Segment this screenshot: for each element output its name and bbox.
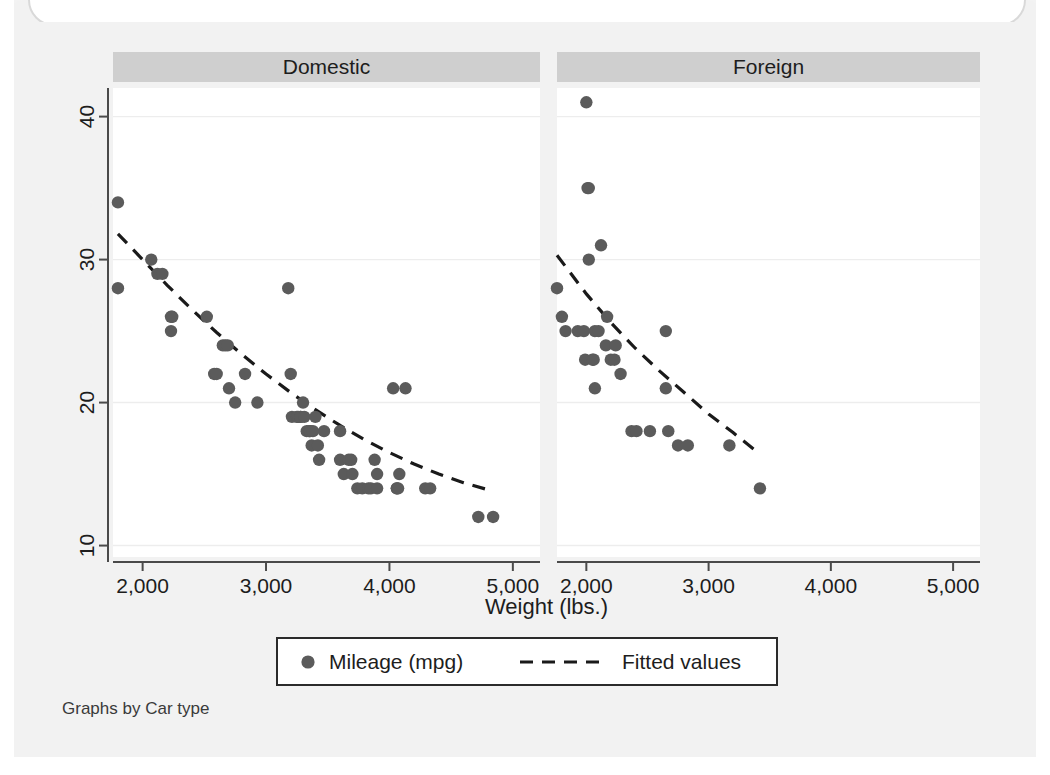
data-point bbox=[368, 454, 380, 466]
x-tick-label-3000: 3,000 bbox=[240, 574, 293, 597]
data-point bbox=[392, 482, 404, 494]
y-tick-label-10: 10 bbox=[75, 534, 98, 557]
data-point bbox=[210, 368, 222, 380]
data-point bbox=[112, 196, 124, 208]
data-point bbox=[371, 468, 383, 480]
data-point bbox=[282, 282, 294, 294]
y-tick-label-20: 20 bbox=[75, 391, 98, 414]
data-point bbox=[587, 353, 599, 365]
data-point bbox=[393, 468, 405, 480]
plot-area-foreign bbox=[557, 88, 980, 557]
panel-title-domestic: Domestic bbox=[283, 55, 371, 78]
data-point bbox=[165, 325, 177, 337]
panel-title-foreign: Foreign bbox=[733, 55, 804, 78]
data-point bbox=[297, 396, 309, 408]
data-point bbox=[345, 454, 357, 466]
mileage-vs-weight-scatter-chart: Domestic2,0003,0004,0005,000Foreign2,000… bbox=[0, 0, 1050, 775]
panel-domestic: Domestic2,0003,0004,0005,000 bbox=[112, 52, 540, 597]
figure-page: Domestic2,0003,0004,0005,000Foreign2,000… bbox=[0, 0, 1050, 775]
data-point bbox=[251, 396, 263, 408]
data-point bbox=[609, 339, 621, 351]
data-point bbox=[589, 382, 601, 394]
data-point bbox=[312, 439, 324, 451]
x-axis-title: Weight (lbs.) bbox=[485, 594, 608, 619]
data-point bbox=[472, 511, 484, 523]
y-tick-label-30: 30 bbox=[75, 248, 98, 271]
data-point bbox=[334, 425, 346, 437]
x-tick-label-4000: 4,000 bbox=[363, 574, 416, 597]
data-point bbox=[309, 411, 321, 423]
data-point bbox=[660, 382, 672, 394]
data-point bbox=[592, 325, 604, 337]
data-point bbox=[298, 411, 310, 423]
data-point bbox=[614, 368, 626, 380]
data-point bbox=[399, 382, 411, 394]
data-point bbox=[723, 439, 735, 451]
data-point bbox=[346, 468, 358, 480]
data-point bbox=[285, 368, 297, 380]
data-point bbox=[145, 253, 157, 265]
data-point bbox=[112, 282, 124, 294]
data-point bbox=[754, 482, 766, 494]
x-tick-label-3000: 3,000 bbox=[682, 574, 735, 597]
data-point bbox=[682, 439, 694, 451]
data-point bbox=[307, 425, 319, 437]
data-point bbox=[556, 311, 568, 323]
data-point bbox=[580, 96, 592, 108]
y-tick-label-40: 40 bbox=[75, 105, 98, 128]
data-point bbox=[313, 454, 325, 466]
legend-marker-mileage bbox=[301, 655, 314, 668]
data-point bbox=[644, 425, 656, 437]
data-point bbox=[487, 511, 499, 523]
data-point bbox=[223, 382, 235, 394]
data-point bbox=[371, 482, 383, 494]
data-point bbox=[156, 268, 168, 280]
data-point bbox=[166, 311, 178, 323]
data-point bbox=[601, 311, 613, 323]
data-point bbox=[630, 425, 642, 437]
data-point bbox=[608, 353, 620, 365]
data-point bbox=[595, 239, 607, 251]
data-point bbox=[201, 311, 213, 323]
graph-note: Graphs by Car type bbox=[62, 699, 209, 718]
panel-foreign: Foreign2,0003,0004,0005,000 bbox=[551, 52, 980, 597]
data-point bbox=[424, 482, 436, 494]
x-tick-label-2000: 2,000 bbox=[116, 574, 169, 597]
data-point bbox=[551, 282, 563, 294]
data-point bbox=[239, 368, 251, 380]
data-point bbox=[318, 425, 330, 437]
data-point bbox=[583, 253, 595, 265]
data-point bbox=[229, 396, 241, 408]
data-point bbox=[662, 425, 674, 437]
data-point bbox=[387, 382, 399, 394]
data-point bbox=[660, 325, 672, 337]
data-point bbox=[559, 325, 571, 337]
data-point bbox=[583, 182, 595, 194]
data-point bbox=[222, 339, 234, 351]
data-point bbox=[578, 325, 590, 337]
x-tick-label-4000: 4,000 bbox=[805, 574, 858, 597]
legend-label-fitted-values: Fitted values bbox=[622, 650, 741, 673]
legend-label-mileage: Mileage (mpg) bbox=[329, 650, 463, 673]
x-tick-label-5000: 5,000 bbox=[927, 574, 980, 597]
